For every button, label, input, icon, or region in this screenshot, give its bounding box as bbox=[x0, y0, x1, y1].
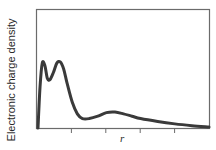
chart: Electronic charge density r bbox=[0, 0, 216, 150]
plot-area bbox=[0, 0, 216, 150]
charge-density-curve bbox=[38, 61, 209, 128]
x-axis-label: r bbox=[120, 132, 124, 144]
y-axis-label: Electronic charge density bbox=[3, 15, 19, 145]
